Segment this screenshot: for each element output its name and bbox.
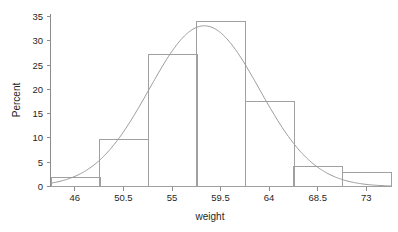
x-tick-label-64: 64	[264, 192, 275, 203]
y-tick-label-30: 30	[32, 35, 43, 46]
y-axis-title: Percent	[11, 83, 22, 118]
x-axis-title: weight	[195, 211, 225, 222]
histogram-bar	[246, 102, 295, 187]
y-axis-tick-labels: 0 5 10 15 20 25 30 35	[32, 11, 43, 192]
y-tick-label-20: 20	[32, 84, 43, 95]
x-axis-tick-labels: 46 50.5 55 59.5 64 68.5 73	[70, 192, 372, 203]
x-tick-label-59-5: 59.5	[211, 192, 230, 203]
x-tick-label-46: 46	[70, 192, 81, 203]
x-tick-label-55: 55	[167, 192, 178, 203]
normal-density-curve	[51, 26, 391, 186]
y-tick-label-15: 15	[32, 108, 43, 119]
y-tick-label-5: 5	[38, 157, 43, 168]
y-tick-label-10: 10	[32, 132, 43, 143]
histogram-chart: 0 5 10 15 20 25 30 35 Percent	[0, 0, 398, 232]
y-tick-label-35: 35	[32, 11, 43, 22]
x-axis: 46 50.5 55 59.5 64 68.5 73 weight	[51, 187, 391, 223]
x-tick-label-68-5: 68.5	[308, 192, 327, 203]
y-tick-label-0: 0	[38, 181, 43, 192]
x-axis-ticks	[75, 187, 366, 191]
histogram-bar	[149, 55, 198, 187]
y-axis: 0 5 10 15 20 25 30 35 Percent	[11, 11, 51, 192]
histogram-bars	[52, 22, 392, 187]
x-tick-label-73: 73	[361, 192, 372, 203]
y-tick-label-25: 25	[32, 60, 43, 71]
y-axis-ticks	[47, 17, 51, 187]
histogram-bar	[197, 22, 246, 187]
chart-canvas: 0 5 10 15 20 25 30 35 Percent	[0, 0, 398, 232]
x-tick-label-50-5: 50.5	[114, 192, 133, 203]
histogram-bar	[100, 140, 149, 187]
